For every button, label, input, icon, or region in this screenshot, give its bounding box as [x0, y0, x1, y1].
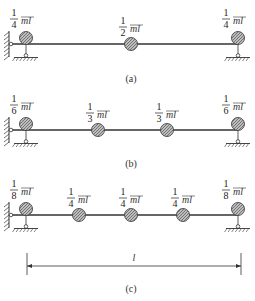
- figure-caption: (a): [125, 73, 136, 85]
- mass-circle-icon: [125, 38, 138, 51]
- mass-label: 12ml: [119, 15, 143, 38]
- mass-circle-icon: [20, 118, 33, 131]
- svg-text:ml: ml: [78, 194, 88, 205]
- mass-label: 16ml: [10, 93, 34, 116]
- svg-text:6: 6: [224, 105, 229, 116]
- figure-a: 14ml12ml14ml(a): [4, 7, 250, 85]
- svg-text:4: 4: [224, 19, 229, 30]
- svg-text:8: 8: [224, 190, 229, 201]
- lumped-mass-c-5: 18ml: [222, 178, 246, 216]
- svg-text:1: 1: [12, 178, 17, 189]
- svg-text:ml: ml: [21, 101, 31, 112]
- lumped-mass-a-2: 12ml: [119, 15, 143, 51]
- hinge-icon: [9, 42, 13, 46]
- mass-label: 13ml: [155, 101, 179, 124]
- right-pin-support: [225, 44, 251, 61]
- mass-label: 18ml: [10, 178, 34, 201]
- mass-circle-icon: [92, 124, 105, 137]
- lumped-mass-a-3: 14ml: [222, 7, 246, 45]
- mass-circle-icon: [125, 209, 138, 222]
- figure-b: 16ml13ml13ml16ml(b): [4, 93, 250, 170]
- svg-text:ml: ml: [233, 186, 243, 197]
- svg-text:4: 4: [173, 198, 178, 209]
- mass-label: 14ml: [67, 186, 91, 209]
- mass-circle-icon: [232, 203, 245, 216]
- lumped-mass-c-3: 14ml: [119, 186, 143, 222]
- mass-label: 14ml: [10, 7, 34, 30]
- mass-circle-icon: [73, 209, 86, 222]
- left-pin-support: [13, 130, 39, 147]
- length-dimension: l: [27, 252, 241, 275]
- svg-text:8: 8: [12, 190, 17, 201]
- svg-text:3: 3: [157, 113, 162, 124]
- svg-text:1: 1: [224, 7, 229, 18]
- figure-caption: (c): [125, 283, 136, 295]
- svg-text:1: 1: [224, 178, 229, 189]
- mass-label: 14ml: [171, 186, 195, 209]
- fixed-wall-support: [4, 31, 9, 60]
- svg-text:6: 6: [12, 105, 17, 116]
- lumped-mass-c-2: 14ml: [67, 186, 91, 222]
- left-pin-support: [13, 215, 39, 232]
- mass-circle-icon: [20, 32, 33, 45]
- svg-text:ml: ml: [97, 109, 107, 120]
- svg-text:ml: ml: [166, 109, 176, 120]
- svg-text:ml: ml: [130, 23, 140, 34]
- length-label: l: [133, 252, 136, 263]
- svg-text:1: 1: [69, 186, 74, 197]
- lumped-mass-c-4: 14ml: [171, 186, 195, 222]
- svg-text:4: 4: [121, 198, 126, 209]
- svg-text:1: 1: [121, 186, 126, 197]
- svg-text:1: 1: [224, 93, 229, 104]
- mass-label: 14ml: [119, 186, 143, 209]
- lumped-mass-b-4: 16ml: [222, 93, 246, 131]
- fixed-wall-support: [4, 202, 9, 231]
- mass-label: 16ml: [222, 93, 246, 116]
- lumped-mass-b-2: 13ml: [86, 101, 110, 137]
- lumped-mass-b-3: 13ml: [155, 101, 179, 137]
- svg-text:1: 1: [173, 186, 178, 197]
- figure-caption: (b): [125, 158, 137, 170]
- svg-text:1: 1: [88, 101, 93, 112]
- svg-text:ml: ml: [21, 15, 31, 26]
- right-pin-support: [225, 130, 251, 147]
- lumped-mass-b-1: 16ml: [10, 93, 34, 131]
- mass-circle-icon: [161, 124, 174, 137]
- svg-text:ml: ml: [182, 194, 192, 205]
- lumped-mass-beam-diagram: 14ml12ml14ml(a)16ml13ml13ml16ml(b)18ml14…: [0, 0, 255, 301]
- hinge-icon: [9, 128, 13, 132]
- svg-text:ml: ml: [130, 194, 140, 205]
- svg-text:1: 1: [121, 15, 126, 26]
- svg-text:ml: ml: [21, 186, 31, 197]
- figure-c: 18ml14ml14ml14ml18ml(c): [4, 178, 250, 295]
- fixed-wall-support: [4, 117, 9, 146]
- right-pin-support: [225, 215, 251, 232]
- svg-text:ml: ml: [233, 101, 243, 112]
- mass-label: 18ml: [222, 178, 246, 201]
- left-pin-support: [13, 44, 39, 61]
- svg-text:1: 1: [157, 101, 162, 112]
- mass-circle-icon: [20, 203, 33, 216]
- hinge-icon: [9, 213, 13, 217]
- mass-label: 14ml: [222, 7, 246, 30]
- svg-text:ml: ml: [233, 15, 243, 26]
- mass-circle-icon: [232, 32, 245, 45]
- svg-text:2: 2: [121, 27, 126, 38]
- svg-text:1: 1: [12, 7, 17, 18]
- svg-text:1: 1: [12, 93, 17, 104]
- svg-text:4: 4: [69, 198, 74, 209]
- lumped-mass-a-1: 14ml: [10, 7, 34, 45]
- lumped-mass-c-1: 18ml: [10, 178, 34, 216]
- svg-text:3: 3: [88, 113, 93, 124]
- mass-label: 13ml: [86, 101, 110, 124]
- mass-circle-icon: [232, 118, 245, 131]
- mass-circle-icon: [177, 209, 190, 222]
- svg-text:4: 4: [12, 19, 17, 30]
